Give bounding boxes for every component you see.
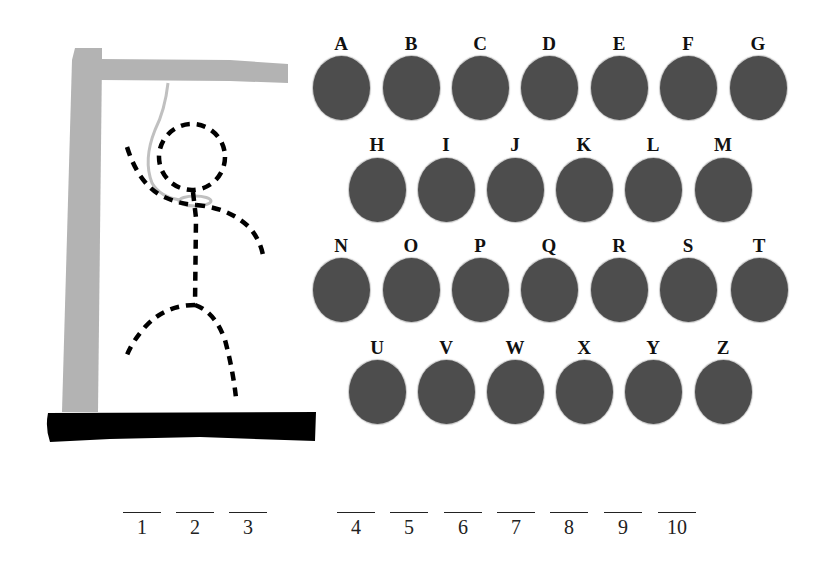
letter-key-d[interactable] [521, 56, 578, 120]
letter-blank-1: 1 [123, 512, 161, 538]
letter-blank-9: 9 [604, 512, 642, 538]
blank-underline [550, 512, 588, 513]
letter-key-i[interactable] [418, 158, 475, 222]
figure-head [159, 124, 225, 190]
figure-left-leg [127, 305, 195, 355]
blank-underline [604, 512, 642, 513]
letter-blank-3: 3 [229, 512, 267, 538]
key-label-e: E [599, 34, 639, 54]
key-label-j: J [495, 135, 535, 155]
figure-body [193, 192, 196, 305]
letter-key-k[interactable] [556, 158, 613, 222]
letter-blank-4: 4 [337, 512, 375, 538]
letter-key-g[interactable] [730, 56, 787, 120]
blank-position-number: 7 [497, 516, 535, 538]
key-label-p: P [460, 236, 500, 256]
letter-key-m[interactable] [695, 158, 752, 222]
letter-key-p[interactable] [452, 258, 509, 322]
key-label-d: D [529, 34, 569, 54]
letter-blank-6: 6 [444, 512, 482, 538]
blank-underline [497, 512, 535, 513]
letter-key-l[interactable] [625, 158, 682, 222]
key-label-a: A [321, 34, 361, 54]
blank-position-number: 6 [444, 516, 482, 538]
letter-key-y[interactable] [625, 360, 682, 424]
figure-right-leg [195, 305, 236, 398]
gallows-beam [100, 59, 288, 83]
letter-key-z[interactable] [695, 360, 752, 424]
key-label-o: O [391, 236, 431, 256]
gallows-post [62, 48, 102, 412]
blank-position-number: 1 [123, 516, 161, 538]
blank-underline [123, 512, 161, 513]
key-label-z: Z [703, 338, 743, 358]
letter-key-q[interactable] [521, 258, 578, 322]
letter-key-w[interactable] [487, 360, 544, 424]
letter-blank-8: 8 [550, 512, 588, 538]
key-label-m: M [703, 135, 743, 155]
key-label-f: F [668, 34, 708, 54]
key-label-k: K [564, 135, 604, 155]
key-label-s: S [668, 236, 708, 256]
key-label-r: R [599, 236, 639, 256]
blank-position-number: 8 [550, 516, 588, 538]
blank-underline [658, 512, 696, 513]
key-label-h: H [357, 135, 397, 155]
letter-key-u[interactable] [349, 360, 406, 424]
letter-key-v[interactable] [418, 360, 475, 424]
blank-underline [229, 512, 267, 513]
letter-key-x[interactable] [556, 360, 613, 424]
key-label-q: Q [529, 236, 569, 256]
letter-key-b[interactable] [383, 56, 440, 120]
letter-key-a[interactable] [313, 56, 370, 120]
key-label-v: V [426, 338, 466, 358]
blank-underline [176, 512, 214, 513]
blank-underline [444, 512, 482, 513]
letter-key-r[interactable] [591, 258, 648, 322]
letter-blank-10: 10 [658, 512, 696, 538]
figure-right-arm [196, 205, 263, 255]
blank-position-number: 4 [337, 516, 375, 538]
letter-key-s[interactable] [660, 258, 717, 322]
key-label-i: I [426, 135, 466, 155]
letter-blank-5: 5 [390, 512, 428, 538]
letter-key-n[interactable] [313, 258, 370, 322]
key-label-u: U [357, 338, 397, 358]
key-label-c: C [460, 34, 500, 54]
letter-key-e[interactable] [591, 56, 648, 120]
blank-underline [390, 512, 428, 513]
key-label-w: W [495, 338, 535, 358]
blank-position-number: 10 [658, 516, 696, 538]
key-label-b: B [391, 34, 431, 54]
key-label-n: N [321, 236, 361, 256]
blank-position-number: 9 [604, 516, 642, 538]
blank-position-number: 3 [229, 516, 267, 538]
key-label-x: X [564, 338, 604, 358]
key-label-g: G [738, 34, 778, 54]
blank-position-number: 5 [390, 516, 428, 538]
blank-underline [337, 512, 375, 513]
key-label-l: L [633, 135, 673, 155]
key-label-y: Y [633, 338, 673, 358]
letter-blank-7: 7 [497, 512, 535, 538]
letter-key-o[interactable] [383, 258, 440, 322]
letter-key-j[interactable] [487, 158, 544, 222]
gallows-base [47, 412, 316, 442]
letter-blank-2: 2 [176, 512, 214, 538]
blank-position-number: 2 [176, 516, 214, 538]
letter-key-t[interactable] [731, 258, 788, 322]
letter-key-h[interactable] [349, 158, 406, 222]
letter-key-f[interactable] [660, 56, 717, 120]
letter-key-c[interactable] [452, 56, 509, 120]
key-label-t: T [739, 236, 779, 256]
